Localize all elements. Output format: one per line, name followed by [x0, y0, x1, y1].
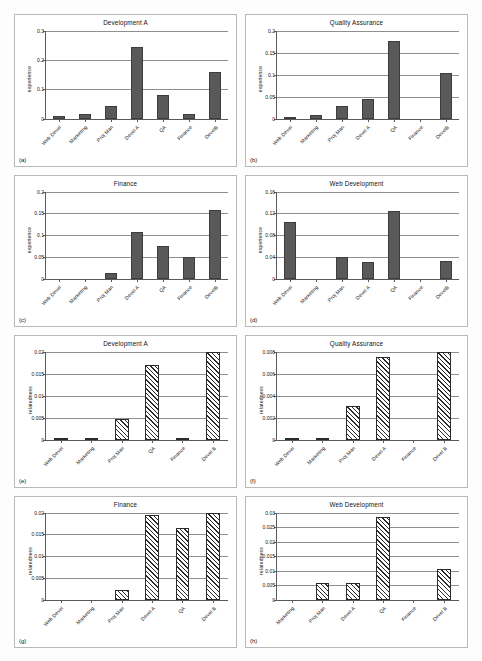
bar-slot	[150, 192, 176, 280]
y-tick-label: 0.08	[265, 232, 275, 238]
y-tick-label: 0.12	[265, 210, 275, 216]
y-tick-label: 0	[41, 597, 44, 603]
bar-slot	[124, 31, 150, 119]
y-tick-label: 0.02	[34, 349, 44, 355]
bar	[362, 262, 374, 279]
x-tick-label: Devel B	[431, 605, 448, 622]
x-tick-label: QA	[388, 284, 398, 294]
y-tick-label: 0.15	[34, 210, 44, 216]
x-tick-label-cell: QA	[381, 282, 407, 322]
bar	[376, 517, 390, 600]
y-tick-label: 0.002	[262, 415, 275, 421]
bar-slot	[307, 513, 337, 601]
x-tick-label-cell: Web Devel	[45, 603, 76, 643]
plot-area: 00.10.20.3	[45, 31, 228, 120]
y-tick-label: 0.2	[268, 28, 275, 34]
bar	[316, 583, 330, 601]
x-tick-label-cell: Finance	[176, 122, 202, 162]
x-tick-label: Devel A	[355, 284, 372, 301]
x-tick-label-cell: Marketing	[302, 282, 328, 322]
x-tick-label: Finance	[176, 124, 193, 141]
x-tick-label-cell: Devel A	[123, 122, 149, 162]
bar-slot	[202, 31, 228, 119]
x-tick-label-cell: Finance	[407, 282, 433, 322]
bar	[336, 257, 348, 279]
y-tick-label: 0	[41, 437, 44, 443]
bar-slot	[407, 31, 433, 119]
x-tick-label: DevelB	[203, 284, 219, 300]
x-tick-label-cell: Devel B	[429, 443, 460, 483]
bar	[346, 583, 360, 601]
x-tick-label: Proj Man	[338, 445, 357, 464]
x-tick-label: DevelB	[203, 124, 219, 140]
x-tick-label: Web Devel	[40, 124, 62, 146]
x-tick-label-cell: DevelB	[433, 282, 459, 322]
y-axis-label: experience	[257, 226, 263, 252]
x-tick-label-cell: Devel B	[429, 603, 460, 643]
y-tick-label: 0.2	[37, 189, 44, 195]
y-axis-label: experience	[257, 66, 263, 92]
x-tick-label: Web Devel	[42, 445, 64, 467]
x-tick-label-cell: Web Devel	[276, 282, 302, 322]
plot-area: 00.0050.010.0150.02	[45, 352, 228, 441]
bar-slot	[381, 31, 407, 119]
bar-slot	[198, 513, 228, 601]
bar-series	[46, 31, 228, 119]
y-tick-label: 0.02	[265, 539, 275, 545]
x-tick-label: Web Devel	[271, 284, 293, 306]
x-tick-label: QA	[388, 124, 398, 134]
x-tick-label-cell: Web Devel	[276, 443, 307, 483]
bar	[336, 106, 348, 118]
x-axis-labels: Web DevelMarketingProj ManDevel AQAFinan…	[45, 282, 228, 322]
plot-area: 00.0020.0040.0060.008	[276, 352, 459, 441]
x-tick-label-cell: DevelB	[202, 122, 228, 162]
x-tick-label: Proj Man	[307, 605, 326, 624]
x-tick-label-cell: Proj Man	[106, 443, 137, 483]
x-tick-label-cell: QA	[167, 603, 198, 643]
x-tick-label: Devel A	[124, 124, 141, 141]
chart-title: Web Development	[246, 180, 467, 187]
bar	[284, 222, 296, 279]
y-axis-label: experience	[26, 226, 32, 252]
bar-slot	[303, 31, 329, 119]
y-tick-label: 0	[41, 276, 44, 282]
x-axis-labels: Web DevelMarketingProj ManDevel AQAFinan…	[276, 282, 459, 322]
bar	[157, 95, 169, 118]
bar	[206, 513, 220, 601]
bar-slot	[307, 352, 337, 440]
x-tick-label: Web Devel	[273, 445, 295, 467]
bar-slot	[137, 352, 167, 440]
bar-slot	[107, 513, 137, 601]
x-tick-label-cell: Devel B	[198, 443, 229, 483]
x-tick-label: Devel A	[124, 284, 141, 301]
panel-letter: (g)	[19, 638, 26, 644]
bar	[376, 357, 390, 439]
chart-panel-b: Quality Assurance(b)experience00.050.10.…	[245, 14, 468, 167]
x-tick-label: Finance	[407, 284, 424, 301]
y-tick-label: 0.02	[34, 510, 44, 516]
y-tick-label: 0.1	[268, 72, 275, 78]
bar	[131, 232, 143, 279]
x-tick-label-cell: Proj Man	[307, 603, 338, 643]
bar-series	[46, 513, 228, 601]
bar-slot	[329, 192, 355, 280]
x-tick-label-cell: Marketing	[71, 122, 97, 162]
y-tick-label: 0.008	[262, 349, 275, 355]
x-tick-label-cell: Web Devel	[45, 282, 71, 322]
bar-slot	[202, 192, 228, 280]
bar-slot	[76, 513, 106, 601]
x-tick-label: Finance	[407, 124, 424, 141]
bar-slot	[368, 352, 398, 440]
y-tick-label: 0.3	[37, 28, 44, 34]
chart-title: Development A	[15, 340, 236, 347]
x-tick-label-cell: Finance	[176, 282, 202, 322]
x-tick-label-cell: Devel A	[337, 603, 368, 643]
bar-slot	[277, 352, 307, 440]
bar-series	[277, 513, 459, 601]
y-tick-label: 0.15	[265, 50, 275, 56]
bar-series	[277, 31, 459, 119]
chart-panel-h: Web Development(h)relatedness00.0050.010…	[245, 496, 468, 649]
plot-area: 00.050.10.150.2	[276, 31, 459, 120]
y-tick-label: 0.005	[31, 415, 44, 421]
x-tick-label: Proj Man	[96, 124, 115, 143]
